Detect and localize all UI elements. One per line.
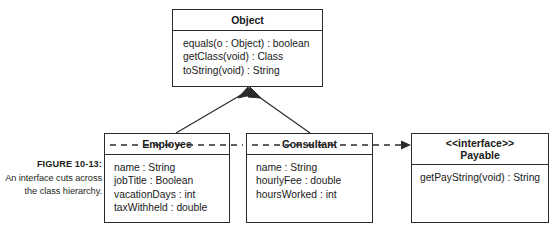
generalization-arrowhead-consultant: [248, 87, 261, 98]
interface-stereotype: <<interface>>: [412, 137, 548, 149]
generalization-arrowhead-employee: [238, 87, 251, 98]
class-member: jobTitle : Boolean: [114, 174, 229, 187]
class-member: hoursWorked : int: [256, 188, 372, 201]
realization-arrowhead-payable: [401, 141, 411, 150]
class-members-object: equals(o : Object) : boolean getClass(vo…: [173, 31, 322, 82]
class-box-payable[interactable]: <<interface>> Payable getPayString(void)…: [411, 133, 549, 223]
figure-caption: FIGURE 10-13: An interface cuts across t…: [2, 158, 102, 199]
class-name-employee: Employee: [105, 134, 229, 155]
class-members-consultant: name : String hourlyFee : double hoursWo…: [247, 155, 372, 206]
class-member: hourlyFee : double: [256, 174, 372, 187]
generalization-line-employee-object: [176, 92, 246, 133]
class-name-object: Object: [173, 10, 322, 31]
class-box-object[interactable]: Object equals(o : Object) : boolean getC…: [172, 9, 323, 87]
class-box-employee[interactable]: Employee name : String jobTitle : Boolea…: [104, 133, 230, 223]
figure-caption-text: An interface cuts across the class hiera…: [2, 172, 102, 199]
class-box-consultant[interactable]: Consultant name : String hourlyFee : dou…: [246, 133, 373, 223]
figure-caption-label: FIGURE 10-13:: [37, 159, 102, 169]
interface-name-payable: <<interface>> Payable: [412, 134, 548, 165]
class-members-employee: name : String jobTitle : Boolean vacatio…: [105, 155, 229, 220]
class-member: name : String: [114, 161, 229, 174]
class-member: getClass(void) : Class: [183, 50, 322, 63]
class-member: taxWithheld : double: [114, 201, 229, 214]
interface-label: Payable: [412, 149, 548, 161]
class-member: vacationDays : int: [114, 188, 229, 201]
figure-uml-class-diagram: FIGURE 10-13: An interface cuts across t…: [0, 0, 555, 239]
generalization-line-consultant-object: [252, 92, 310, 133]
class-member: getPayString(void) : String: [412, 171, 548, 184]
class-members-payable: getPayString(void) : String: [412, 165, 548, 189]
class-name-consultant: Consultant: [247, 134, 372, 155]
class-member: equals(o : Object) : boolean: [183, 37, 322, 50]
class-member: toString(void) : String: [183, 64, 322, 77]
class-member: name : String: [256, 161, 372, 174]
